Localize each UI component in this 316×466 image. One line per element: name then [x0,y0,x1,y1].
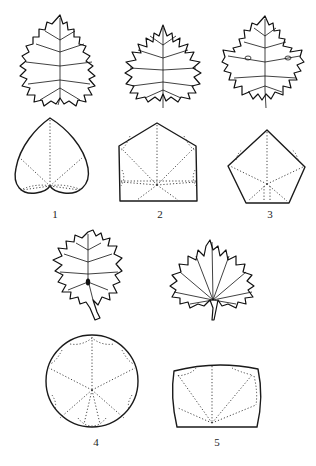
leaf-illustration-5 [170,240,254,320]
leaf-illustration-2 [125,25,201,108]
leaf-illustration-4 [53,230,122,320]
panel-label-2: 2 [157,208,163,220]
panel-label-5: 5 [214,436,220,448]
shape-outline-4-circle [46,335,138,427]
panel-label-4: 4 [93,436,99,448]
panel-label-1: 1 [52,208,58,220]
diagram-canvas [0,0,316,466]
leaf-illustration-3 [222,16,304,108]
panel-label-3: 3 [267,208,273,220]
shape-outline-2-truncated-pentagon [119,123,197,201]
shape-outline-5-rounded-rectangle [173,365,261,427]
leaf-illustration-1 [20,15,95,106]
shape-outline-1-heart [15,118,88,193]
leaf-shape-diagram: 1 2 3 4 5 [0,0,316,466]
shape-outline-3-pentagon [228,130,305,203]
